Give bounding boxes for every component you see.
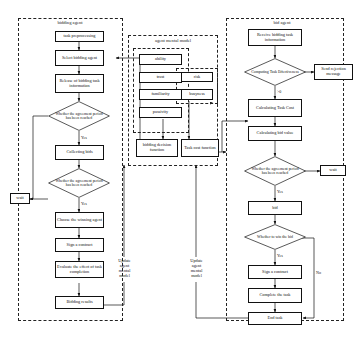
node-attribute-passivity[interactable]: passivity bbox=[139, 107, 182, 118]
node-attribute-familiarity[interactable]: familiarity bbox=[139, 89, 182, 100]
node-attribute-ability[interactable]: ability bbox=[139, 54, 182, 65]
node-bidding-results[interactable]: Bidding results bbox=[55, 296, 104, 309]
node-collecting-bids[interactable]: Collecting bids bbox=[55, 145, 104, 160]
edge-label-yes-2: Yes bbox=[81, 201, 87, 206]
decision-whether-to-win-the-bid[interactable]: Whether to win the bid bbox=[244, 224, 306, 250]
edge-label-no-win: No bbox=[316, 270, 321, 275]
node-bidding-decision-function[interactable]: bidding decision function bbox=[136, 139, 178, 157]
node-calculating-bid-value[interactable]: Calculating bid value bbox=[248, 126, 302, 141]
node-calculating-task-cost[interactable]: Calculating Task Cost bbox=[248, 99, 302, 117]
edge-label-yes-1: Yes bbox=[81, 135, 87, 140]
node-task-cost-function[interactable]: Task cost function bbox=[181, 139, 219, 157]
label-update-agent-mental-model-left: Update agent mental model bbox=[114, 258, 135, 279]
node-choose-winning-agent[interactable]: Choose the winning agent bbox=[55, 212, 104, 228]
node-wait-left[interactable]: wait bbox=[10, 193, 30, 204]
edge-label-yes-win: Yes bbox=[277, 253, 283, 258]
node-attribute-risk[interactable]: risk bbox=[181, 72, 213, 82]
node-send-rejection-message[interactable]: Send rejection message bbox=[314, 64, 353, 80]
node-sign-contract-right[interactable]: Sign a contract bbox=[248, 265, 302, 279]
node-sign-contract-left[interactable]: Sign a contract bbox=[55, 238, 104, 252]
panel-agent-mental-model-title: agent mental model bbox=[155, 38, 191, 43]
panel-bidding-agent-title: bidding agent bbox=[57, 20, 82, 25]
node-attribute-trust[interactable]: trust bbox=[139, 72, 182, 83]
decision-agreement-period-right-label: Whether the agreement period has been re… bbox=[248, 167, 301, 176]
node-receive-bidding-task-information[interactable]: Receive bidding task information bbox=[248, 29, 302, 46]
node-end-task[interactable]: End task bbox=[248, 312, 302, 325]
node-wait-right[interactable]: wait bbox=[320, 165, 346, 176]
panel-bid-agent-title: bid agent bbox=[274, 20, 291, 25]
node-release-bidding-task-information[interactable]: Release of bidding task information bbox=[55, 74, 104, 93]
node-attribute-busyness[interactable]: busyness bbox=[181, 89, 213, 100]
decision-agreement-period-right[interactable]: Whether the agreement period has been re… bbox=[244, 156, 306, 186]
flowchart-canvas: bidding agent agent mental model bid age… bbox=[0, 0, 360, 338]
edge-label-yes-period-right: Yes bbox=[277, 189, 283, 194]
node-evaluate-effect[interactable]: Evaluate the effect of task completion bbox=[55, 261, 104, 278]
decision-agreement-period-2[interactable]: Whether the agreement period has been re… bbox=[48, 168, 110, 198]
decision-agreement-period-2-label: Whether the agreement period has been re… bbox=[52, 179, 105, 188]
node-select-bidding-agent[interactable]: Select bidding agent bbox=[55, 50, 104, 66]
decision-whether-to-win-the-bid-label: Whether to win the bid bbox=[248, 235, 301, 239]
node-bid[interactable]: bid bbox=[248, 201, 302, 215]
decision-agreement-period-1[interactable]: Whether the agreement period has been re… bbox=[48, 101, 110, 131]
label-update-agent-mental-model-right: Update agent mental model bbox=[186, 258, 207, 279]
decision-computing-task-effectiveness-label: Computing Task Effectiveness bbox=[248, 70, 301, 74]
edge-label-greater-than-zero: >0 bbox=[277, 89, 281, 94]
decision-computing-task-effectiveness[interactable]: Computing Task Effectiveness bbox=[244, 58, 306, 86]
node-task-preprocessing[interactable]: task preprocessing bbox=[55, 31, 104, 42]
decision-agreement-period-1-label: Whether the agreement period has been re… bbox=[52, 112, 105, 121]
node-complete-the-task[interactable]: Complete the task bbox=[248, 288, 302, 303]
